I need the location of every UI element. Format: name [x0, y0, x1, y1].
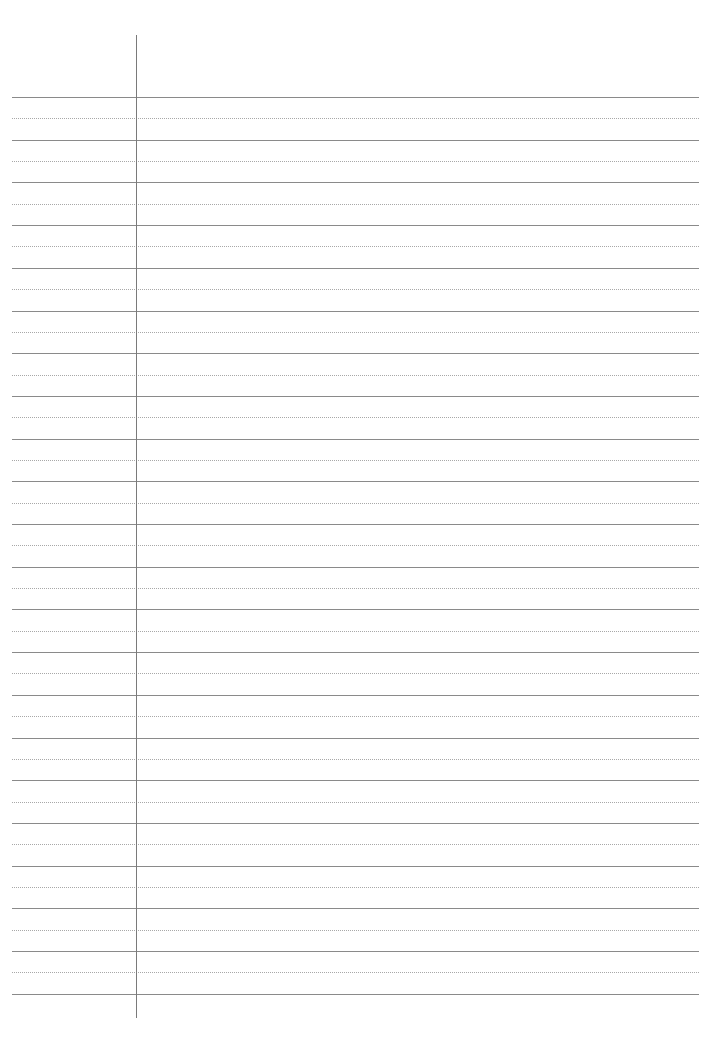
dotted-guide-line [12, 246, 699, 247]
dotted-guide-line [12, 887, 699, 888]
dotted-guide-line [12, 289, 699, 290]
solid-rule-line [12, 652, 699, 653]
solid-rule-line [12, 524, 699, 525]
dotted-guide-line [12, 802, 699, 803]
solid-rule-line [12, 738, 699, 739]
dotted-guide-line [12, 545, 699, 546]
solid-rule-line [12, 866, 699, 867]
dotted-guide-line [12, 332, 699, 333]
solid-rule-line [12, 780, 699, 781]
solid-rule-line [12, 311, 699, 312]
dotted-guide-line [12, 503, 699, 504]
dotted-guide-line [12, 588, 699, 589]
solid-rule-line [12, 353, 699, 354]
solid-rule-line [12, 97, 699, 98]
dotted-guide-line [12, 844, 699, 845]
dotted-guide-line [12, 161, 699, 162]
solid-rule-line [12, 439, 699, 440]
dotted-guide-line [12, 972, 699, 973]
dotted-guide-line [12, 631, 699, 632]
solid-rule-line [12, 396, 699, 397]
dotted-guide-line [12, 204, 699, 205]
solid-rule-line [12, 567, 699, 568]
ruled-paper [0, 0, 719, 1052]
solid-rule-line [12, 823, 699, 824]
solid-rule-line [12, 140, 699, 141]
dotted-guide-line [12, 716, 699, 717]
dotted-guide-line [12, 118, 699, 119]
solid-rule-line [12, 182, 699, 183]
solid-rule-line [12, 695, 699, 696]
dotted-guide-line [12, 375, 699, 376]
solid-rule-line [12, 481, 699, 482]
solid-rule-line [12, 609, 699, 610]
solid-rule-line [12, 908, 699, 909]
dotted-guide-line [12, 930, 699, 931]
dotted-guide-line [12, 417, 699, 418]
margin-line [136, 35, 137, 1018]
solid-rule-line [12, 268, 699, 269]
solid-rule-line [12, 951, 699, 952]
dotted-guide-line [12, 673, 699, 674]
dotted-guide-line [12, 460, 699, 461]
solid-rule-line [12, 994, 699, 995]
dotted-guide-line [12, 759, 699, 760]
solid-rule-line [12, 225, 699, 226]
